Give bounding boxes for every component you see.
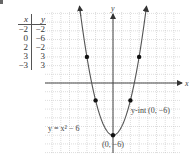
vertex-label: (0, −6) — [102, 140, 124, 149]
data-point — [85, 55, 89, 59]
x-axis-label: x — [184, 79, 189, 88]
equation-label: y = x² − 6 — [48, 124, 79, 133]
y-axis-label: y — [110, 4, 115, 13]
data-point — [93, 98, 97, 102]
data-point — [111, 133, 115, 137]
data-point — [137, 55, 141, 59]
data-point — [128, 98, 132, 102]
intercept-label: y-int (0, −6) — [131, 106, 170, 115]
parabola-graph: x y y = x² − 6 y-int (0, −6) (0, −6) — [0, 0, 194, 155]
